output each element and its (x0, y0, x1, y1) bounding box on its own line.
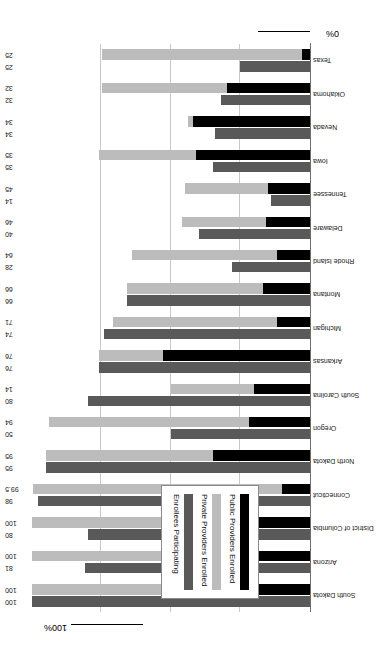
category-label: District of Columbia (313, 524, 379, 533)
legend-label-wrap-1: Private Providers Enrolled (197, 494, 211, 590)
axis-min-label: 0% (326, 29, 339, 39)
bar-segment-public (282, 484, 310, 495)
bar-segment-enrollees (99, 362, 310, 373)
value-label-providers: 100 (5, 552, 29, 560)
axis-max-label: 100% (44, 623, 67, 633)
bar-segment-public (302, 49, 310, 60)
bar-enrollees-participating (104, 329, 310, 340)
bar-providers-enrolled (132, 250, 310, 261)
bar-group (32, 49, 310, 72)
bar-segment-private (127, 283, 263, 294)
bar-segment-public (263, 283, 310, 294)
value-label-enrollees: 66 (5, 297, 29, 305)
bar-enrollees-participating (46, 462, 310, 473)
value-label-providers: 25 (5, 51, 29, 59)
bar-segment-private (49, 417, 249, 428)
bar-segment-private (188, 116, 194, 127)
legend-label-wrap-0: Public Providers Enrolled (225, 494, 239, 590)
value-label-enrollees: 80 (5, 397, 29, 405)
axis-arrow-low (258, 31, 310, 32)
value-label-enrollees: 25 (5, 63, 29, 71)
bar-segment-enrollees (215, 128, 310, 139)
chart-figure: 0% 100% Public Providers Enrolled Privat… (0, 0, 379, 645)
bar-group (32, 250, 310, 273)
bar-providers-enrolled (102, 49, 311, 60)
value-label-providers: 100 (5, 586, 29, 594)
bar-group (32, 450, 310, 473)
bar-segment-private (102, 49, 302, 60)
category-label: Connecticut (313, 490, 379, 499)
bar-segment-enrollees (221, 95, 310, 106)
bar-segment-private (171, 384, 254, 395)
bar-segment-public (277, 317, 310, 328)
legend-label-wrap-2: Enrollees Participating (169, 494, 183, 590)
bar-segment-enrollees (241, 61, 311, 72)
value-label-enrollees: 95 (5, 464, 29, 472)
bar-segment-enrollees (104, 329, 310, 340)
bar-providers-enrolled (182, 217, 310, 228)
bar-providers-enrolled (99, 150, 310, 161)
bar-segment-private (113, 317, 277, 328)
bar-segment-enrollees (271, 195, 310, 206)
value-label-providers: 100 (5, 519, 29, 527)
bar-providers-enrolled (49, 417, 310, 428)
bar-segment-enrollees (213, 162, 310, 173)
bar-segment-public (227, 83, 310, 94)
bar-segment-public (277, 250, 310, 261)
category-label: North Dakota (313, 457, 379, 466)
axis-arrow-high (71, 624, 143, 625)
bar-group (32, 150, 310, 173)
category-label: Tennessee (313, 190, 379, 199)
category-label: Michigan (313, 323, 379, 332)
category-label: Arizona (313, 557, 379, 566)
legend-label-public: Public Providers Enrolled (225, 494, 239, 590)
value-label-providers: 94 (5, 419, 29, 427)
bar-enrollees-participating (199, 229, 310, 240)
legend-label-enrollees: Enrollees Participating (169, 494, 183, 590)
bar-segment-enrollees (88, 396, 310, 407)
category-label: Rhode Island (313, 256, 379, 265)
value-label-providers: 32 (5, 84, 29, 92)
category-label: South Carolina (313, 390, 379, 399)
value-label-providers: 35 (5, 151, 29, 159)
bar-segment-private (99, 150, 196, 161)
value-label-enrollees: 81 (5, 564, 29, 572)
bar-segment-private (46, 450, 213, 461)
bar-enrollees-participating (241, 61, 311, 72)
value-axis-line (310, 43, 311, 612)
chart-legend: Public Providers Enrolled Private Provid… (161, 485, 259, 599)
bar-group (32, 350, 310, 373)
legend-swatch-enrollees (184, 494, 193, 590)
bar-providers-enrolled (99, 350, 310, 361)
bar-segment-private (182, 217, 265, 228)
value-label-providers: 76 (5, 352, 29, 360)
value-label-providers: 64 (5, 251, 29, 259)
category-label: Nevada (313, 123, 379, 132)
legend-swatch-private (212, 494, 221, 590)
bar-segment-public (213, 450, 310, 461)
value-label-providers: 46 (5, 218, 29, 226)
bar-providers-enrolled (102, 83, 311, 94)
bar-segment-public (249, 417, 310, 428)
value-label-providers: 45 (5, 185, 29, 193)
bar-providers-enrolled (188, 116, 310, 127)
bar-providers-enrolled (171, 384, 310, 395)
value-label-enrollees: 40 (5, 230, 29, 238)
bar-enrollees-participating (213, 162, 310, 173)
bar-segment-enrollees (199, 229, 310, 240)
bar-enrollees-participating (127, 295, 310, 306)
value-label-enrollees: 80 (5, 531, 29, 539)
bar-enrollees-participating (232, 262, 310, 273)
bar-group (32, 217, 310, 240)
value-label-enrollees: 50 (5, 431, 29, 439)
category-label: Arkansas (313, 357, 379, 366)
value-label-enrollees: 28 (5, 263, 29, 271)
category-label: Iowa (313, 156, 379, 165)
bar-segment-private (185, 183, 268, 194)
legend-label-private: Private Providers Enrolled (197, 494, 211, 590)
bar-segment-private (99, 350, 163, 361)
category-label: Texas (313, 56, 379, 65)
bar-group (32, 417, 310, 440)
bar-segment-public (196, 150, 310, 161)
bar-providers-enrolled (127, 283, 310, 294)
